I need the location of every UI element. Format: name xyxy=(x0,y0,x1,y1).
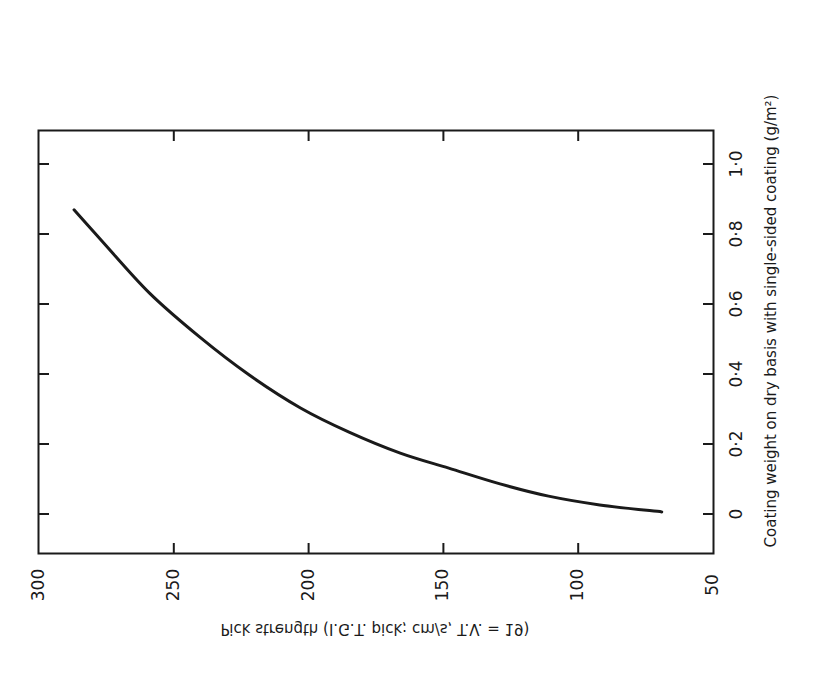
tick-labels: 5010015020025030000·20·40·60·81·0 xyxy=(28,150,746,601)
x-tick-label: 0·4 xyxy=(726,360,746,387)
x-tick-label: 0 xyxy=(726,509,746,520)
x-tick-label: 0·2 xyxy=(726,430,746,457)
x-tick-label: 0·8 xyxy=(726,220,746,247)
y-tick-label: 150 xyxy=(432,569,452,601)
y-axis-title: Pick strength (I.G.T. pick; cm/s, T.V. =… xyxy=(221,620,530,638)
x-tick-label: 0·6 xyxy=(726,290,746,317)
y-tick-label: 50 xyxy=(702,574,722,596)
chart-canvas: 5010015020025030000·20·40·60·81·0 Coatin… xyxy=(0,0,813,680)
x-tick-label: 1·0 xyxy=(726,150,746,177)
data-series-line xyxy=(74,210,662,512)
y-tick-label: 200 xyxy=(298,569,318,601)
y-tick-label: 100 xyxy=(567,569,587,601)
plot-frame xyxy=(39,131,714,554)
y-tick-label: 250 xyxy=(163,569,183,601)
axis-ticks xyxy=(39,131,713,553)
x-axis-title: Coating weight on dry basis with single-… xyxy=(762,95,780,548)
y-tick-label: 300 xyxy=(28,569,48,601)
